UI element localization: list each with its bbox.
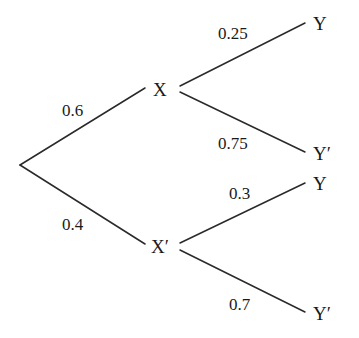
node-xprime: X′ (151, 237, 169, 256)
node-x-y: Y (313, 14, 327, 33)
prob-x-yprime-label: 0.75 (218, 135, 248, 152)
prob-xprime-yprime-label: 0.7 (229, 296, 250, 313)
prob-xprime-label: 0.4 (62, 216, 83, 233)
branch-root-to-x (20, 88, 145, 165)
node-x-yprime: Y′ (313, 144, 331, 163)
prob-x-label: 0.6 (62, 102, 83, 119)
prob-xprime-y-label: 0.3 (229, 185, 250, 202)
node-xprime-y: Y (313, 174, 327, 193)
node-x: X (153, 80, 167, 99)
prob-x-y-label: 0.25 (218, 25, 248, 42)
node-xprime-yprime: Y′ (313, 304, 331, 323)
tree-branches (0, 0, 359, 338)
